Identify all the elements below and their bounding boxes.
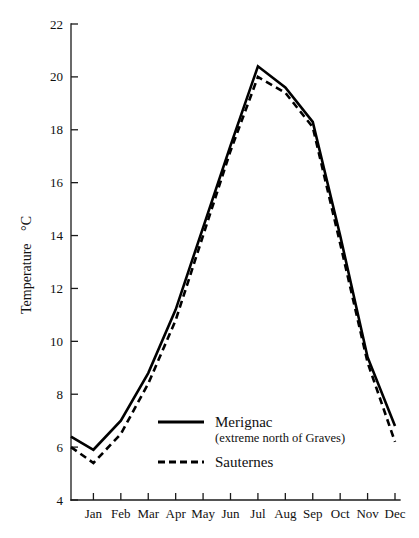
y-tick-label: 22 bbox=[50, 17, 63, 32]
data-series-group bbox=[71, 66, 395, 463]
x-tick-label: Oct bbox=[331, 506, 350, 521]
legend-label-sauternes: Sauternes bbox=[215, 454, 273, 470]
y-tick-label: 10 bbox=[50, 334, 63, 349]
y-axis-title: Temperature °C bbox=[19, 216, 34, 314]
x-tick-label: Jan bbox=[85, 506, 103, 521]
x-tick-label: Jul bbox=[250, 506, 266, 521]
chart-legend: Merignac(extreme north of Graves)Sautern… bbox=[158, 414, 345, 470]
x-tick-label: May bbox=[191, 506, 215, 521]
x-tick-label: Feb bbox=[111, 506, 131, 521]
series-line-merignac bbox=[71, 66, 395, 449]
x-tick-label: Jun bbox=[221, 506, 240, 521]
svg-text:Temperature °C: Temperature °C bbox=[19, 216, 34, 314]
y-tick-label: 6 bbox=[57, 440, 64, 455]
x-tick-label: Aug bbox=[274, 506, 297, 521]
x-axis-ticks: JanFebMarAprMayJunJulAugSepOctNovDec bbox=[85, 493, 406, 521]
y-tick-label: 14 bbox=[50, 228, 64, 243]
y-tick-label: 12 bbox=[50, 281, 63, 296]
x-tick-label: Nov bbox=[356, 506, 379, 521]
y-axis-title-text: Temperature bbox=[19, 243, 34, 314]
chart-container: 46810121416182022 JanFebMarAprMayJunJulA… bbox=[0, 0, 419, 538]
y-tick-label: 16 bbox=[50, 175, 64, 190]
legend-sublabel-merignac: (extreme north of Graves) bbox=[215, 431, 345, 445]
temperature-line-chart: 46810121416182022 JanFebMarAprMayJunJulA… bbox=[0, 0, 419, 538]
y-tick-label: 18 bbox=[50, 122, 63, 137]
x-tick-label: Dec bbox=[385, 506, 406, 521]
legend-label-merignac: Merignac bbox=[215, 414, 273, 430]
x-tick-label: Sep bbox=[303, 506, 323, 521]
y-tick-label: 20 bbox=[50, 69, 63, 84]
y-tick-label: 8 bbox=[57, 387, 64, 402]
y-axis-ticks: 46810121416182022 bbox=[50, 17, 78, 508]
x-tick-label: Mar bbox=[137, 506, 159, 521]
y-tick-label: 4 bbox=[57, 493, 64, 508]
y-axis-unit-text: °C bbox=[19, 216, 34, 231]
x-tick-label: Apr bbox=[166, 506, 187, 521]
